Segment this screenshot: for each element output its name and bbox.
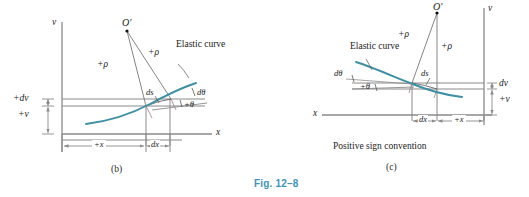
panel-c-dv-label: dv (499, 79, 508, 89)
panel-b-origin-prime-dot (125, 29, 128, 32)
panel-c-ds-leader (426, 78, 430, 85)
panel-c-dx-dimension-label: dx (418, 115, 428, 124)
panel-b-elastic-curve (86, 83, 196, 124)
panel-c-x-axis-label: x (313, 109, 317, 119)
panel-b-origin-prime-label: O′ (122, 18, 131, 28)
panel-c-subtitle: Positive sign convention (333, 142, 426, 152)
panel-c-dtheta-label: dθ (334, 69, 342, 78)
panel-b-elastic-curve-label: Elastic curve (176, 40, 225, 50)
panel-b-dx-dimension-label: dx (150, 140, 160, 149)
figure-container: v x O′ +ρ +ρ ds Elastic curve dθ +θ +dv … (0, 0, 529, 197)
panel-c-graphics (322, 8, 497, 125)
panel-b-curve-leader (178, 64, 189, 78)
figure-caption: Fig. 12–8 (254, 178, 299, 189)
panel-b-dv-label: +dv (13, 94, 28, 104)
panel-c-v-axis-label: v (488, 4, 492, 14)
panel-b-v-label: +v (18, 110, 29, 120)
panel-c-origin-prime-label: O′ (433, 2, 442, 12)
panel-b-dtheta-tick (192, 88, 195, 96)
panel-b-letter: (b) (111, 165, 122, 175)
panel-c-theta-label: +θ (360, 82, 370, 91)
panel-b-radius-right-ext (171, 99, 176, 110)
panel-b-radius-right-label: +ρ (148, 48, 159, 58)
panel-c-dtheta-tick (352, 75, 354, 82)
panel-c-radius-right-label: +ρ (441, 42, 452, 52)
panel-b-x-dimension-label: +x (92, 140, 106, 149)
panel-c-ds-label: ds (421, 69, 429, 78)
panel-c-elastic-curve-label: Elastic curve (350, 42, 399, 52)
panel-c-letter: (c) (386, 163, 397, 173)
panel-b-radius-left-label: +ρ (97, 60, 108, 70)
panel-c-curve-leader (366, 59, 372, 70)
panel-c-v-label: +v (499, 95, 510, 105)
panel-c-x-dimension-label: +x (452, 115, 466, 124)
panel-b-ds-label: ds (146, 88, 154, 97)
panel-b-radius-left-ext (146, 106, 152, 118)
panel-c-radius-left-label: +ρ (398, 30, 409, 40)
panel-b-x-axis-label: x (216, 128, 220, 138)
figure-vector-graphics (0, 0, 529, 197)
panel-b-radius-left (127, 31, 146, 106)
panel-b-v-axis-label: v (52, 18, 56, 28)
panel-b-dtheta-label: dθ (197, 88, 205, 97)
panel-b-theta-label: +θ (184, 100, 194, 109)
panel-c-theta-tick (375, 84, 377, 91)
